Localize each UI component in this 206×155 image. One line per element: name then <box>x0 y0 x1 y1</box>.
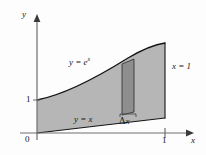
x-axis-label: x <box>191 136 195 145</box>
figure-canvas: y x 0 1 1 y = ex y = x x = 1 Δx <box>0 0 206 155</box>
upper-curve-label: y = ex <box>69 58 90 67</box>
representative-strip <box>122 59 134 115</box>
delta-x-label: Δx <box>119 117 130 126</box>
upper-curve-label-text: y = e <box>69 57 88 67</box>
lower-curve-label: y = x <box>74 115 93 124</box>
y-axis-label: y <box>22 10 26 19</box>
origin-label: 0 <box>25 135 30 144</box>
upper-curve-exponent: x <box>88 56 91 62</box>
shaded-region <box>37 43 165 133</box>
x-tick-label-1: 1 <box>162 136 167 145</box>
y-axis-arrowhead <box>34 14 41 22</box>
delta-x-variable: x <box>126 116 130 126</box>
right-boundary-label: x = 1 <box>172 62 191 71</box>
figure-graphics <box>0 0 206 155</box>
y-tick-label-1: 1 <box>26 95 31 104</box>
